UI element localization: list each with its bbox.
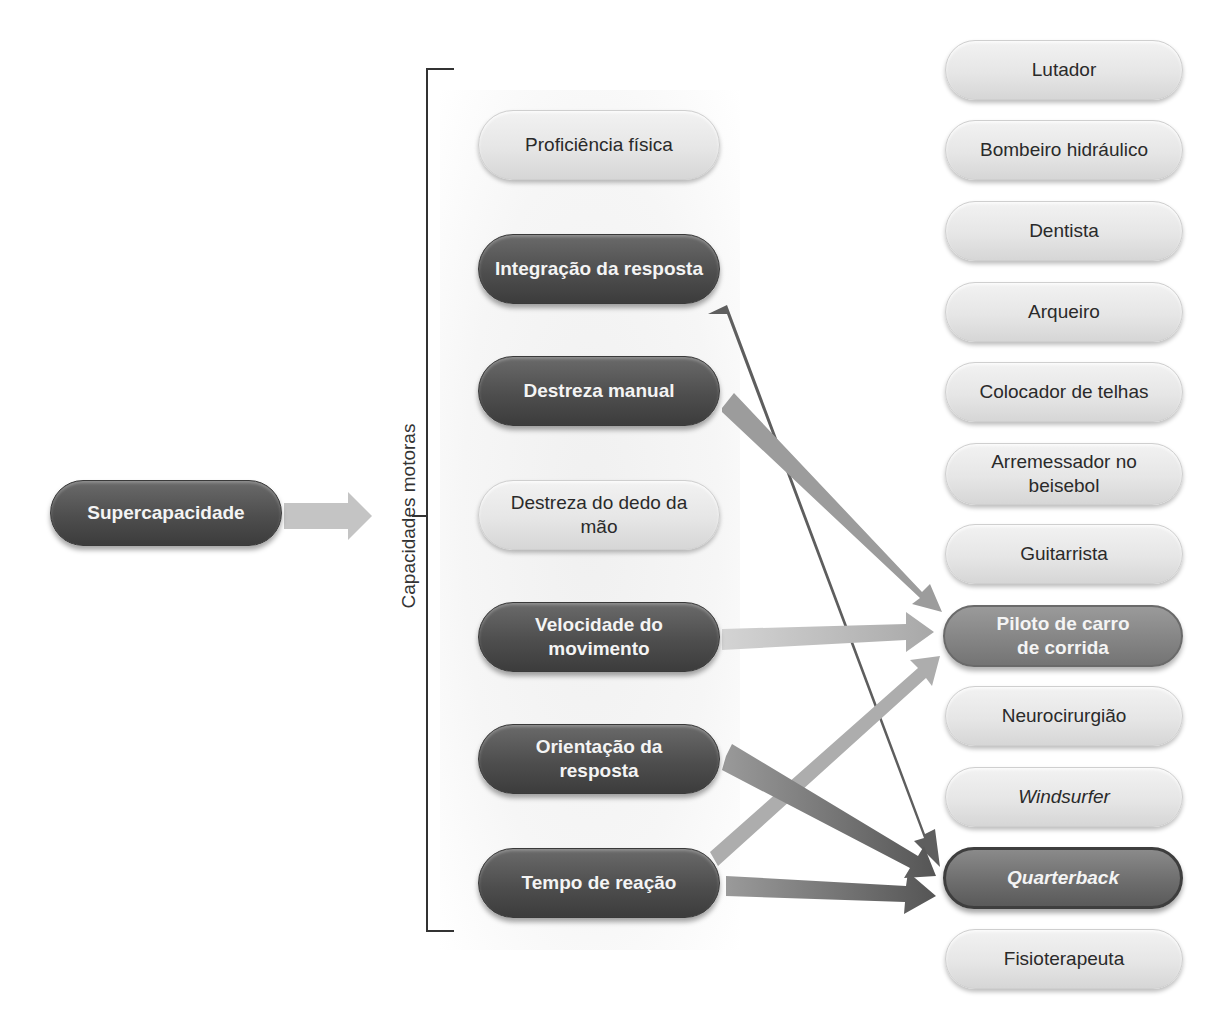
node-supercapacidade: Supercapacidade <box>50 480 282 546</box>
bracket-top <box>426 68 454 70</box>
arrow-velocidade-to-piloto <box>722 612 934 652</box>
occupation-lutador: Lutador <box>945 40 1183 100</box>
occupation-arqueiro: Arqueiro <box>945 282 1183 342</box>
group-label-capacidades-motoras: Capacidades motoras <box>398 396 420 636</box>
ability-destreza-manual: Destreza manual <box>478 356 720 426</box>
arrow-supercapacidade-to-capacidades <box>284 492 372 540</box>
occupation-dentista: Dentista <box>945 201 1183 261</box>
arrow-integracao-to-quarterback <box>708 305 940 867</box>
occupation-neurocirurgiao: Neurocirurgião <box>945 686 1183 746</box>
ability-destreza-do-dedo: Destreza do dedo da mão <box>478 480 720 550</box>
ability-orientacao-da-resposta: Orientação da resposta <box>478 724 720 794</box>
ability-proficiencia-fisica: Proficiência física <box>478 110 720 180</box>
bracket-bottom <box>426 930 454 932</box>
occupation-windsurfer: Windsurfer <box>945 767 1183 827</box>
occupation-arremessador-no-beisebol: Arremessador no beisebol <box>945 443 1183 505</box>
ability-tempo-de-reacao: Tempo de reação <box>478 848 720 918</box>
ability-velocidade-do-movimento: Velocidade do movimento <box>478 602 720 672</box>
occupation-guitarrista: Guitarrista <box>945 524 1183 584</box>
occupation-piloto-de-carro-de-corrida: Piloto de carro de corrida <box>943 605 1183 667</box>
ability-integracao-da-resposta: Integração da resposta <box>478 234 720 304</box>
occupation-colocador-de-telhas: Colocador de telhas <box>945 362 1183 422</box>
occupation-quarterback: Quarterback <box>943 847 1183 909</box>
occupation-fisioterapeuta: Fisioterapeuta <box>945 929 1183 989</box>
bracket-vertical <box>426 68 428 932</box>
arrow-destreza-manual-to-piloto <box>722 393 942 612</box>
occupation-bombeiro-hidraulico: Bombeiro hidráulico <box>945 120 1183 180</box>
arrow-tempo-to-quarterback <box>726 872 936 914</box>
